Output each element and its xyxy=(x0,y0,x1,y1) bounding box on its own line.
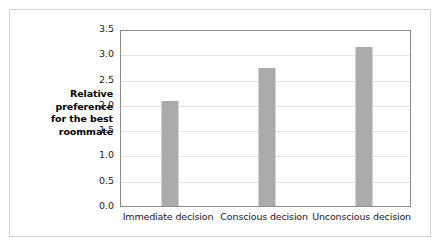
x-axis-tick-labels: Immediate decisionConscious decisionUnco… xyxy=(120,210,411,226)
bar-slot xyxy=(315,31,412,206)
y-axis-tick-label: 3.5 xyxy=(88,24,114,34)
plot-area xyxy=(120,30,411,207)
bar-slot xyxy=(121,31,218,206)
y-axis-tick-label: 1.5 xyxy=(88,125,114,135)
y-axis-tick-label: 2.5 xyxy=(88,75,114,85)
x-axis-tick-label: Unconscious decision xyxy=(312,210,411,226)
y-axis-tick-label: 0.5 xyxy=(88,176,114,186)
y-axis-tick-label: 0.0 xyxy=(88,201,114,211)
bar xyxy=(258,68,275,206)
figure-root: Relative preference for the best roommat… xyxy=(0,0,440,246)
y-axis-tick-label: 1.0 xyxy=(88,150,114,160)
bar-slot xyxy=(218,31,315,206)
bar xyxy=(161,101,178,206)
y-axis-tick-label: 3.0 xyxy=(88,49,114,59)
x-axis-tick-label: Immediate decision xyxy=(120,210,216,226)
y-axis-tick-label: 2.0 xyxy=(88,100,114,110)
x-axis-tick-label: Conscious decision xyxy=(216,210,312,226)
bar xyxy=(355,47,372,206)
